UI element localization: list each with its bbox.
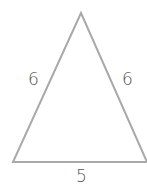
base-label: 5 [76, 168, 87, 185]
right-side-label: 6 [122, 71, 133, 88]
triangle-figure [0, 0, 147, 196]
left-side-label: 6 [28, 71, 39, 88]
